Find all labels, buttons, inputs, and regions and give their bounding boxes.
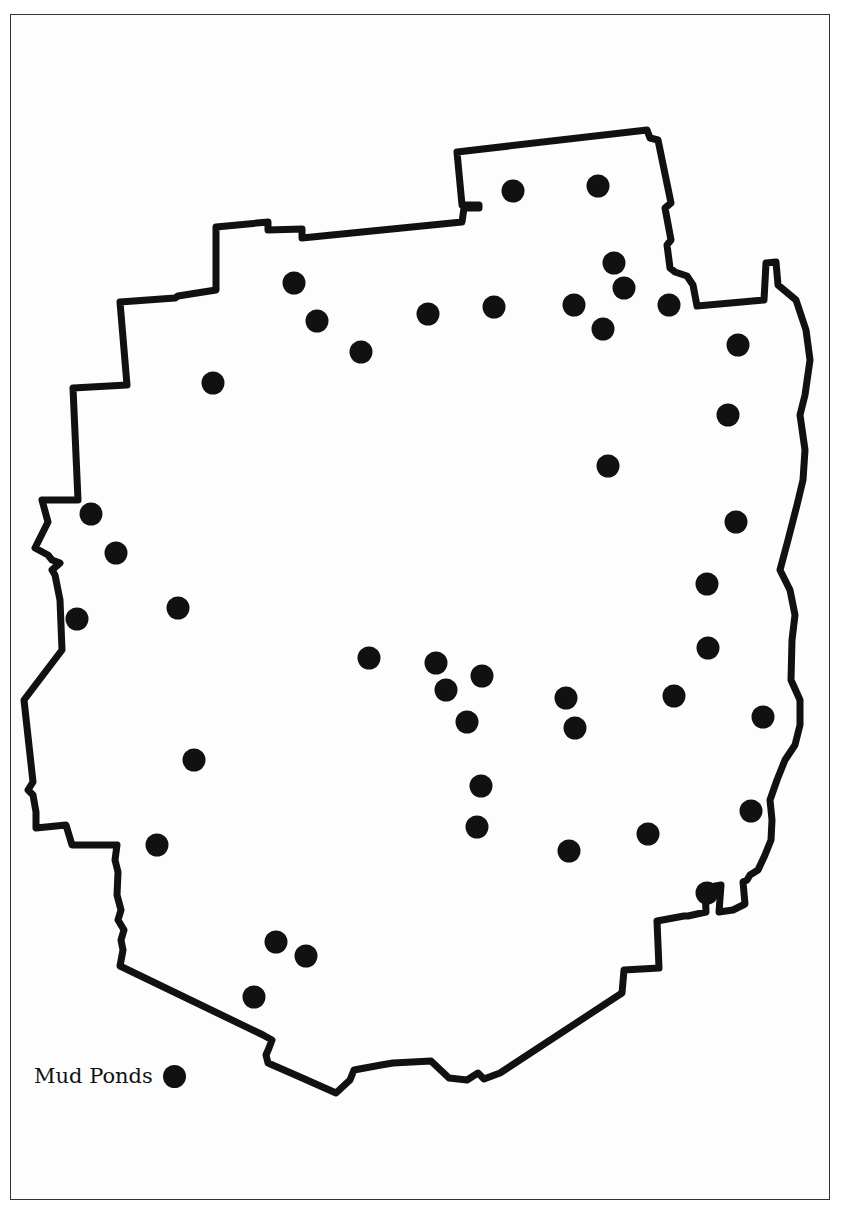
pond-marker (295, 945, 318, 968)
pond-marker (740, 800, 763, 823)
pond-marker (658, 294, 681, 317)
pond-marker (502, 180, 525, 203)
map-canvas (0, 0, 842, 1214)
pond-marker (167, 597, 190, 620)
pond-marker (563, 294, 586, 317)
pond-marker (183, 749, 206, 772)
pond-marker (283, 272, 306, 295)
pond-marker (306, 310, 329, 333)
pond-marker (717, 404, 740, 427)
park-boundary (24, 130, 810, 1093)
pond-marker (564, 717, 587, 740)
pond-marker (558, 840, 581, 863)
pond-marker (350, 341, 373, 364)
pond-marker (105, 542, 128, 565)
pond-marker (637, 823, 660, 846)
map-legend: Mud Ponds (34, 1064, 186, 1088)
pond-marker (752, 706, 775, 729)
pond-marker (66, 608, 89, 631)
pond-marker (603, 252, 626, 275)
pond-marker (587, 175, 610, 198)
pond-marker (358, 647, 381, 670)
pond-marker (697, 637, 720, 660)
legend-label: Mud Ponds (34, 1064, 153, 1088)
pond-marker (696, 882, 719, 905)
pond-marker (456, 711, 479, 734)
pond-marker (146, 834, 169, 857)
pond-marker (80, 503, 103, 526)
pond-marker (727, 334, 750, 357)
pond-marker (243, 986, 266, 1009)
pond-marker (555, 687, 578, 710)
pond-marker (592, 318, 615, 341)
pond-marker (613, 277, 636, 300)
pond-marker (202, 372, 225, 395)
pond-marker (435, 679, 458, 702)
pond-marker (471, 665, 494, 688)
pond-marker (425, 652, 448, 675)
pond-marker (725, 511, 748, 534)
pond-marker (470, 775, 493, 798)
pond-marker (466, 816, 489, 839)
pond-marker (696, 573, 719, 596)
pond-marker (663, 685, 686, 708)
pond-marker (417, 303, 440, 326)
pond-marker (597, 455, 620, 478)
pond-marker-icon (163, 1065, 186, 1088)
pond-marker (483, 296, 506, 319)
pond-marker (265, 931, 288, 954)
